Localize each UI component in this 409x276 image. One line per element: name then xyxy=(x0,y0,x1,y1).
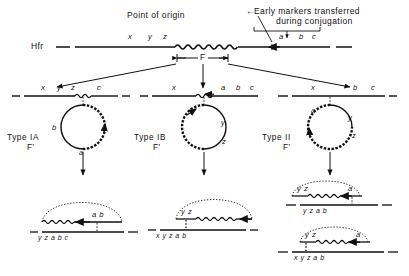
typeII-episome-marker-z: z xyxy=(352,131,356,140)
point-of-origin-label: Point of origin xyxy=(127,10,185,20)
merozygote-II-1-top-left-markers: y z xyxy=(297,184,308,193)
merozygote-II-2-top-left-markers: y z xyxy=(305,230,316,239)
typeIB-name: Type IB xyxy=(134,133,166,142)
hfr-marker-c: c xyxy=(312,32,316,41)
typeIB-marker-b: b xyxy=(236,83,241,92)
typeIA-marker-c: c xyxy=(97,83,101,92)
hfr-label: Hfr xyxy=(31,41,44,51)
merozygote-IB-top-left-markers: y z xyxy=(181,207,192,216)
merozygote-II-2-bottom-markers: x y z a b xyxy=(294,254,325,261)
merozygote-IB-bottom-markers: x y z a b xyxy=(156,232,187,239)
typeIA-name: Type IA xyxy=(7,133,39,142)
typeII-marker-c: c xyxy=(371,83,375,92)
typeIB-state: F' xyxy=(153,143,161,152)
typeII-episome-marker-a: a xyxy=(311,106,316,115)
typeII-marker-b: b xyxy=(353,83,358,92)
typeIB-marker-a: a xyxy=(221,83,226,92)
merozygote-IA-top-right-markers: a b xyxy=(92,210,104,219)
hfr-marker-x: x xyxy=(128,32,132,41)
merozygote-II-2-top-right-markers: a xyxy=(356,230,361,239)
typeIA-marker-x: x xyxy=(41,83,45,92)
hfr-marker-a: a xyxy=(279,32,284,41)
merozygote-II-1-bottom-markers: y z a b xyxy=(303,207,327,214)
merozygote-IA-bottom-markers: y z a b c xyxy=(38,234,69,241)
f-factor-label: F xyxy=(198,52,208,62)
typeII-marker-x: x xyxy=(311,83,315,92)
typeIB-marker-c: c xyxy=(250,83,254,92)
typeII-episome-marker-y: y xyxy=(348,113,352,122)
typeIA-episome-marker-b: b xyxy=(52,123,57,132)
early-markers-label-line2: during conjugation xyxy=(276,16,353,26)
typeIA-episome-marker-a: a xyxy=(79,148,84,157)
early-markers-label-line1: Early markers transferred xyxy=(254,6,360,16)
hfr-marker-b: b xyxy=(299,32,304,41)
hfr-marker-z: z xyxy=(163,32,167,41)
typeIB-episome-marker-y: y xyxy=(221,118,225,127)
typeIA-state: F' xyxy=(27,143,35,152)
figure-canvas: Point of origin ← Early markers transfer… xyxy=(0,0,409,276)
hfr-marker-y: y xyxy=(148,32,152,41)
typeIA-marker-z: z xyxy=(71,83,75,92)
typeIB-marker-x: x xyxy=(172,83,176,92)
typeIB-episome-marker-z: z xyxy=(222,137,226,146)
typeII-state: F' xyxy=(283,143,291,152)
typeII-name: Type II xyxy=(262,133,291,142)
merozygote-II-1-top-right-markers: a xyxy=(348,184,353,193)
typeIA-marker-y: y xyxy=(57,83,61,92)
